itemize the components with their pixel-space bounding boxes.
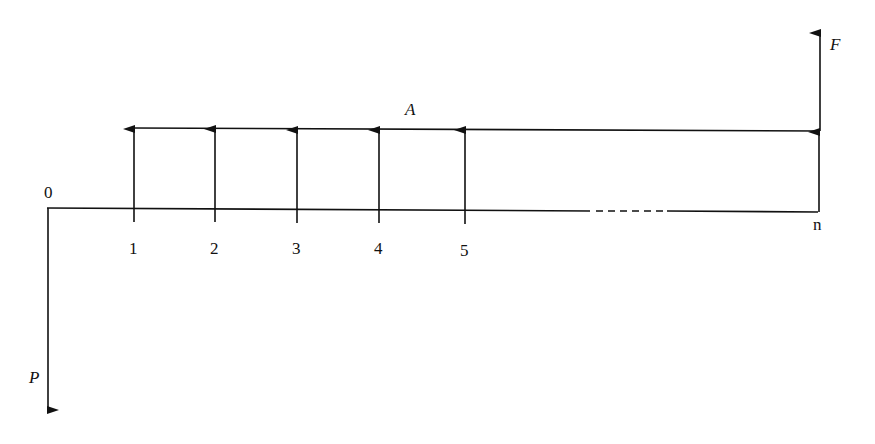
period-label-4: 4 [374, 239, 383, 258]
period-label-n: n [813, 215, 822, 234]
period-label-5: 5 [460, 241, 469, 260]
period-label-3: 3 [292, 239, 301, 258]
annuity-line [133, 128, 818, 131]
present-value-label: P [28, 368, 39, 387]
annuity-label: A [404, 100, 416, 119]
period-label-1: 1 [129, 239, 138, 258]
cash-flow-diagram: 0 1 2 3 4 5 n A P F [0, 0, 875, 444]
future-value-label: F [829, 35, 841, 54]
origin-label: 0 [44, 183, 53, 202]
period-label-2: 2 [210, 239, 219, 258]
time-axis [47, 208, 818, 212]
